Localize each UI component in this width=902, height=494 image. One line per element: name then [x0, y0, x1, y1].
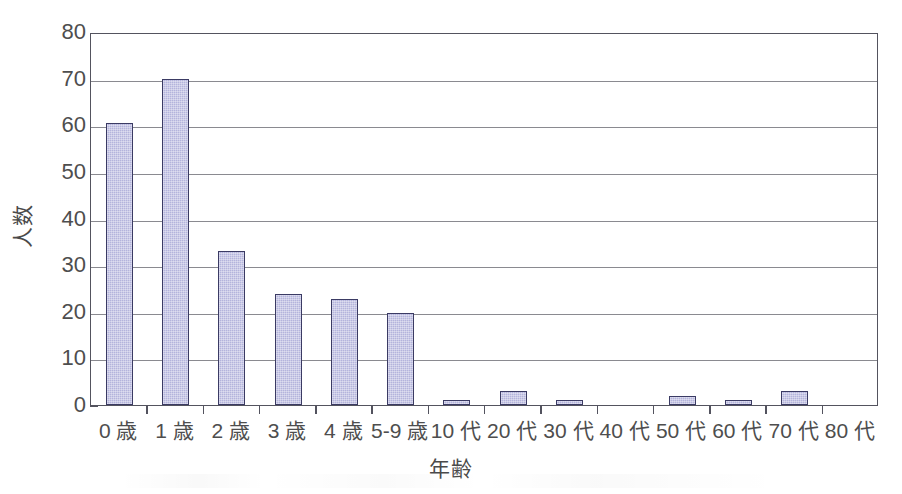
- x-axis-tick-mark: [259, 405, 260, 414]
- x-axis-tick-mark: [540, 405, 541, 414]
- y-axis-tick-label: 80: [30, 19, 86, 45]
- x-axis-tick-mark: [203, 405, 204, 414]
- bar-chart-figure: 人数 01020304050607080 0 歳1 歳2 歳3 歳4 歳5-9 …: [0, 0, 902, 494]
- x-axis-tick-mark: [428, 405, 429, 414]
- x-axis-tick-mark: [315, 405, 316, 414]
- x-axis-tick-mark: [484, 405, 485, 414]
- x-axis-tick-mark: [597, 405, 598, 414]
- bar: [387, 313, 414, 405]
- bar: [781, 391, 808, 405]
- bar: [500, 391, 527, 405]
- y-axis-tick-label: 0: [30, 392, 86, 418]
- x-axis-tick-mark: [709, 405, 710, 414]
- y-axis-tick-label: 40: [30, 206, 86, 232]
- x-axis-tick-mark: [765, 405, 766, 414]
- y-axis-tick-label: 50: [30, 159, 86, 185]
- x-axis-tick-mark: [822, 405, 823, 414]
- scan-artifact: [120, 474, 780, 488]
- y-axis-tick-label: 60: [30, 112, 86, 138]
- bar: [331, 299, 358, 405]
- bar: [106, 123, 133, 405]
- y-axis-tick-label: 20: [30, 299, 86, 325]
- x-axis-tick-label: 80 代: [814, 414, 886, 444]
- bar-series: [91, 34, 877, 405]
- bar: [162, 79, 189, 405]
- x-axis-tick-mark: [653, 405, 654, 414]
- y-axis-tick-label: 70: [30, 66, 86, 92]
- bar: [669, 396, 696, 405]
- x-axis-tick-labels: 0 歳1 歳2 歳3 歳4 歳5-9 歳10 代20 代30 代40 代50 代…: [90, 414, 878, 448]
- y-axis-tick-label: 10: [30, 345, 86, 371]
- plot-area: [90, 33, 878, 406]
- x-axis-tick-mark: [146, 405, 147, 414]
- y-axis-tick-label: 30: [30, 252, 86, 278]
- x-axis-tick-mark: [371, 405, 372, 414]
- bar: [275, 294, 302, 405]
- bar: [218, 251, 245, 405]
- y-axis-tick-labels: 01020304050607080: [24, 33, 86, 406]
